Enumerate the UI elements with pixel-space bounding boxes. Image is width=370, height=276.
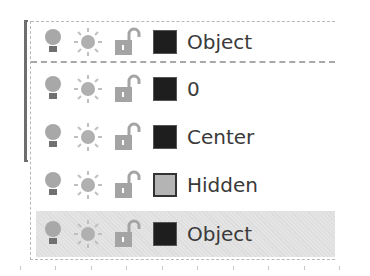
layer-row-center[interactable]: Center [31,113,335,161]
current-layer-display[interactable]: Object [31,21,335,63]
tick [233,266,234,270]
layer-name: 0 [187,77,200,101]
color-swatch-icon[interactable] [153,173,177,197]
layer-name: Hidden [187,173,258,197]
tick [304,266,305,270]
tick [126,266,127,270]
dropdown-bracket [24,20,27,162]
layer-row-object-selected[interactable]: Object [36,211,335,257]
tick [20,266,21,270]
unlocked-padlock-icon[interactable] [113,219,141,249]
layer-row-hidden[interactable]: Hidden [31,161,335,209]
layer-row-0[interactable]: 0 [31,65,335,113]
ruler-ticks [20,266,340,272]
lightbulb-icon[interactable] [43,28,63,56]
sun-icon[interactable] [73,74,103,104]
layer-name: Object [187,222,252,246]
layer-dropdown[interactable]: Object [30,21,335,260]
sun-icon[interactable] [73,170,103,200]
tick [162,266,163,270]
layer-list: 0 [31,65,335,257]
lightbulb-icon[interactable] [43,123,63,151]
tick [339,266,340,270]
tick [55,266,56,270]
lightbulb-icon[interactable] [43,171,63,199]
unlocked-padlock-icon[interactable] [113,170,141,200]
unlocked-padlock-icon[interactable] [113,27,141,57]
layer-name: Center [187,125,254,149]
color-swatch-icon[interactable] [153,222,177,246]
layer-dropdown-screenshot: Object [0,0,370,276]
current-layer-name: Object [187,30,252,54]
lightbulb-icon[interactable] [43,75,63,103]
color-swatch-icon[interactable] [153,125,177,149]
sun-icon[interactable] [73,27,103,57]
sun-icon[interactable] [73,122,103,152]
color-swatch-icon[interactable] [153,77,177,101]
color-swatch-icon[interactable] [153,30,177,54]
tick [91,266,92,270]
lightbulb-icon[interactable] [43,220,63,248]
tick [268,266,269,270]
sun-icon[interactable] [73,219,103,249]
tick [197,266,198,270]
unlocked-padlock-icon[interactable] [113,122,141,152]
unlocked-padlock-icon[interactable] [113,74,141,104]
